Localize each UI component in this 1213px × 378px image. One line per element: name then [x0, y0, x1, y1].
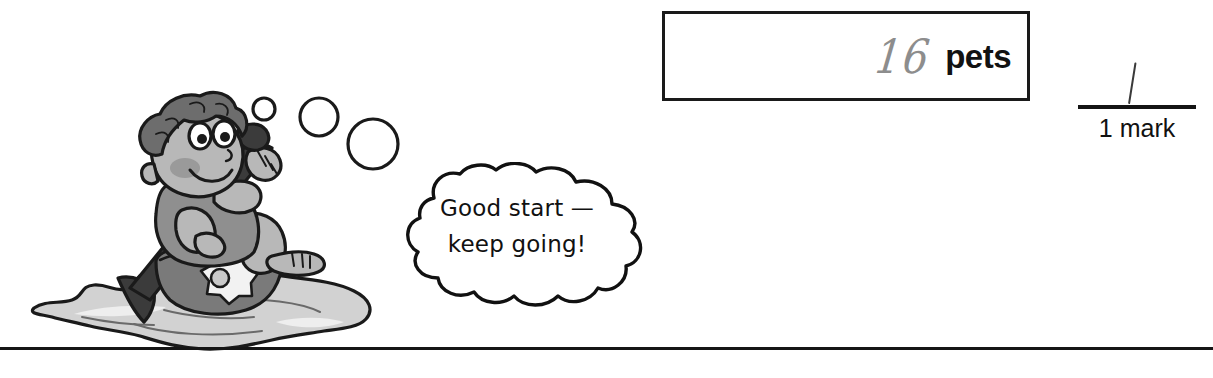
ear — [142, 164, 158, 184]
foot — [267, 252, 324, 275]
exam-page: Good start — keep going! 16 pets 1 mark — [0, 0, 1213, 378]
handwritten-answer: 16 — [873, 32, 934, 79]
encouragement-line-2: keep going! — [372, 226, 662, 262]
encouragement-line-1: Good start — — [372, 190, 662, 226]
answer-row: 16 pets — [876, 14, 1011, 98]
answer-unit-label: pets — [945, 40, 1011, 73]
bubble-small — [253, 98, 275, 120]
hand-lower — [195, 233, 225, 257]
kayak-illustration — [14, 86, 414, 361]
encouragement-speech-bubble: Good start — keep going! — [372, 162, 662, 310]
mark-label: 1 mark — [1078, 114, 1196, 143]
hand-upper — [246, 148, 281, 180]
encouragement-text: Good start — keep going! — [372, 190, 662, 262]
mark-rule-divider — [1078, 105, 1196, 109]
answer-box[interactable]: 16 pets — [662, 11, 1030, 101]
page-bottom-rule — [0, 347, 1213, 350]
bubble-medium — [300, 98, 338, 136]
mark-scheme-area: 1 mark — [1078, 62, 1196, 148]
tick-mark-icon — [1128, 62, 1137, 104]
